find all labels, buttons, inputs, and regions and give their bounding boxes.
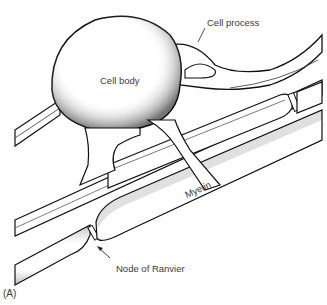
axon-upper-left [15,100,60,146]
panel-label: (A) [3,288,16,299]
cell-process-label: Cell process [207,17,259,28]
cell-process-branch [170,35,322,89]
node-of-ranvier-arrow [97,246,110,258]
cell-body-label: Cell body [100,75,140,86]
oligodendrocyte-diagram [0,0,327,305]
node-of-ranvier-label: Node of Ranvier [116,263,185,274]
cell-process-pointer [198,28,205,42]
